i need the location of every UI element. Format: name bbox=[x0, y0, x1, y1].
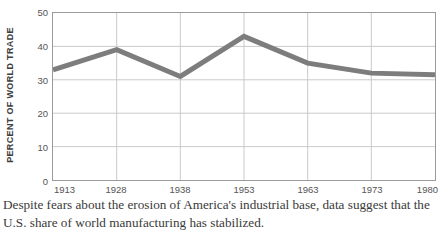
y-tick-label: 0 bbox=[26, 176, 48, 187]
figure-container: PERCENT OF WORLD TRADE 01020304050 19131… bbox=[0, 0, 448, 238]
caption-line-1: Despite fears about the erosion of Ameri… bbox=[3, 196, 445, 214]
x-tick-label: 1938 bbox=[169, 184, 190, 195]
x-tick-label: 1928 bbox=[105, 184, 126, 195]
y-axis-tick-labels: 01020304050 bbox=[24, 0, 48, 195]
y-axis-title: PERCENT OF WORLD TRADE bbox=[2, 10, 18, 180]
y-tick-label: 50 bbox=[26, 7, 48, 18]
x-tick-label: 1963 bbox=[297, 184, 318, 195]
plot-area bbox=[52, 12, 436, 181]
y-axis-title-text: PERCENT OF WORLD TRADE bbox=[5, 27, 15, 163]
chart-area: PERCENT OF WORLD TRADE 01020304050 19131… bbox=[0, 0, 448, 195]
caption-line-2: U.S. share of world manufacturing has st… bbox=[3, 214, 445, 232]
x-tick-label: 1973 bbox=[361, 184, 382, 195]
x-tick-label: 1980 bbox=[417, 184, 438, 195]
x-tick-label: 1953 bbox=[233, 184, 254, 195]
y-tick-label: 40 bbox=[26, 40, 48, 51]
line-chart-svg bbox=[53, 13, 435, 180]
x-tick-label: 1913 bbox=[54, 184, 75, 195]
y-tick-label: 20 bbox=[26, 108, 48, 119]
y-tick-label: 30 bbox=[26, 74, 48, 85]
y-tick-label: 10 bbox=[26, 142, 48, 153]
figure-caption: Despite fears about the erosion of Ameri… bbox=[3, 196, 445, 231]
